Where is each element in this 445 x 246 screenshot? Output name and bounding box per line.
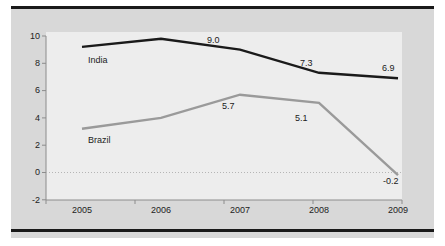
y-tick-marks (42, 36, 46, 200)
x-tick-label-2005: 2005 (62, 205, 102, 215)
data-label-india-2007: 9.0 (207, 35, 220, 45)
y-tick-label-0: 0 (18, 167, 40, 177)
series-label-brazil: Brazil (88, 135, 111, 145)
x-tick-label-2009: 2009 (378, 205, 418, 215)
series-line-brazil (82, 95, 398, 176)
x-tick-label-2006: 2006 (141, 205, 181, 215)
data-label-india-2008: 7.3 (300, 58, 313, 68)
y-tick-label-6: 6 (18, 85, 40, 95)
series-line-india (82, 39, 398, 79)
data-label-brazil-2007: 5.7 (222, 101, 235, 111)
data-label-india-2009: 6.9 (382, 63, 395, 73)
y-tick-label-2: 2 (18, 140, 40, 150)
y-tick-label-8: 8 (18, 58, 40, 68)
y-tick-label-10: 10 (18, 31, 40, 41)
x-tick-label-2007: 2007 (220, 205, 260, 215)
x-tick-label-2008: 2008 (299, 205, 339, 215)
x-tick-marks (46, 200, 402, 204)
y-tick-label-neg2: -2 (18, 195, 40, 205)
data-label-brazil-2009: -0.2 (383, 176, 399, 186)
data-label-brazil-2008: 5.1 (295, 113, 308, 123)
y-tick-label-4: 4 (18, 113, 40, 123)
chart-figure: 10 8 6 4 2 0 -2 2005 2006 2007 2008 2009… (0, 0, 445, 246)
series-label-india: India (88, 55, 108, 65)
